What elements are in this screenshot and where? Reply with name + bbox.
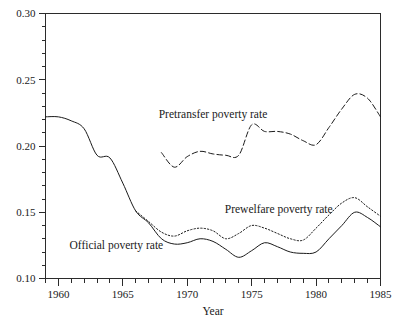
chart-canvas: 0.300.250.200.150.10 1960196519701975198…	[0, 0, 401, 324]
series-label-official-poverty-rate: Official poverty rate	[70, 239, 164, 252]
series-label-prewelfare-poverty-rate: Prewelfare poverty rate	[225, 203, 333, 216]
y-axis-tick-label: 0.10	[16, 272, 36, 284]
x-axis-tick-label: 1975	[241, 288, 264, 300]
series-label-pretransfer-poverty-rate: Pretransfer poverty rate	[159, 108, 268, 121]
y-axis-tick-label: 0.30	[16, 7, 36, 19]
series-line-pretransfer-poverty-rate	[161, 94, 380, 168]
x-axis-title: Year	[202, 305, 223, 317]
series-annotations: Pretransfer poverty ratePrewelfare pover…	[70, 108, 333, 252]
x-axis-tick-label: 1970	[176, 288, 199, 300]
y-axis-tick-label: 0.20	[16, 140, 36, 152]
x-axis-tick-label: 1965	[112, 288, 135, 300]
y-axis-tick-label: 0.15	[16, 206, 36, 218]
y-axis: 0.300.250.200.150.10	[16, 7, 45, 284]
x-axis-tick-label: 1985	[370, 288, 393, 300]
series-line-official-poverty-rate	[46, 117, 381, 258]
x-axis: 196019651970197519801985	[46, 279, 393, 300]
x-axis-tick-label: 1980	[305, 288, 328, 300]
y-axis-tick-label: 0.25	[16, 74, 36, 86]
poverty-rate-chart-figure: 0.300.250.200.150.10 1960196519701975198…	[0, 0, 401, 324]
x-axis-tick-label: 1960	[47, 288, 70, 300]
